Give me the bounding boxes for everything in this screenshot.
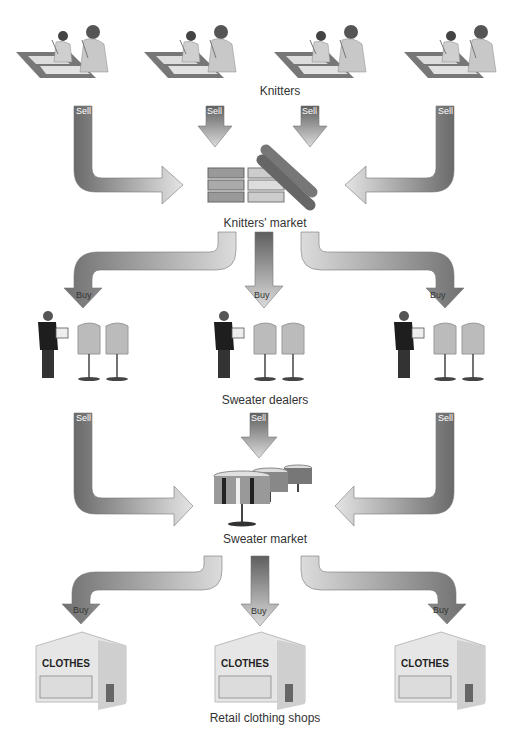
- svg-text:Sell: Sell: [438, 413, 453, 423]
- dealer-illustration-2: [214, 311, 304, 381]
- sell-arrow-down-6: Sell: [241, 413, 277, 458]
- dealer-illustration-1: [38, 311, 128, 381]
- buy-arrow-down-2: Buy: [245, 232, 283, 308]
- sweater-market-illustration: [214, 465, 312, 527]
- buy-arrow-down-5: Buy: [241, 556, 279, 626]
- sell-arrow-left-1: Sell: [74, 106, 183, 204]
- stage-label-knitters-market: Knitters' market: [200, 216, 330, 230]
- knitters-market-illustration: [208, 150, 312, 205]
- svg-text:Buy: Buy: [251, 606, 267, 616]
- clothing-shop-3: [395, 632, 485, 710]
- sell-arrow-right-4: Sell: [345, 106, 454, 204]
- dealer-illustration-3: [394, 311, 484, 381]
- knitter-illustration-4: [404, 25, 496, 78]
- svg-text:Sell: Sell: [76, 106, 91, 116]
- knitter-illustration-3: [274, 25, 366, 78]
- stage-label-sweater-market: Sweater market: [200, 532, 330, 546]
- clothing-shop-1: [36, 632, 126, 710]
- svg-text:Sell: Sell: [207, 106, 222, 116]
- svg-text:Sell: Sell: [76, 413, 91, 423]
- buy-arrow-right-3: Buy: [301, 232, 464, 308]
- sell-arrow-left-5: Sell: [74, 413, 193, 526]
- stage-label-knitters: Knitters: [240, 84, 320, 98]
- stage-label-sweater-dealers: Sweater dealers: [200, 393, 330, 407]
- svg-text:Sell: Sell: [251, 413, 266, 423]
- buy-arrow-left-4: Buy: [62, 556, 222, 624]
- svg-text:Buy: Buy: [254, 290, 270, 300]
- buy-arrow-left-1: Buy: [64, 232, 236, 308]
- sell-arrow-right-7: Sell: [335, 413, 454, 526]
- svg-text:Buy: Buy: [76, 290, 92, 300]
- clothing-shop-2: [215, 632, 305, 710]
- stage-label-retail-shops: Retail clothing shops: [180, 711, 350, 725]
- knitter-illustration-2: [144, 25, 236, 78]
- svg-text:Sell: Sell: [302, 106, 317, 116]
- sell-arrow-down-3: Sell: [293, 106, 327, 147]
- svg-text:Sell: Sell: [438, 106, 453, 116]
- svg-text:Buy: Buy: [73, 605, 89, 615]
- buy-arrow-right-6: Buy: [301, 556, 466, 624]
- knitter-illustration-1: [16, 25, 108, 78]
- svg-text:Buy: Buy: [430, 290, 446, 300]
- market-flow-diagram: CLOTHES Sell Sell Sell Sell Buy: [0, 0, 530, 743]
- sell-arrow-down-2: Sell: [198, 106, 232, 147]
- svg-text:Buy: Buy: [433, 605, 449, 615]
